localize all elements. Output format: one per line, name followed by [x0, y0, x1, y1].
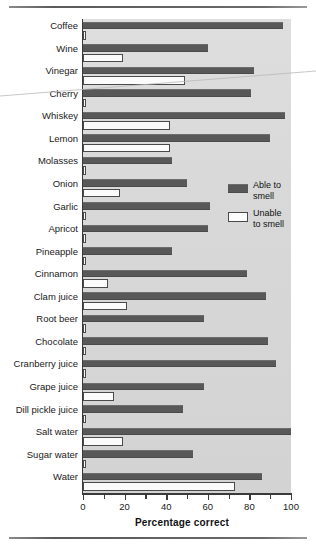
- x-tick-minor: [229, 493, 230, 499]
- legend-item-unable-to-smell: Unable to smell: [228, 210, 312, 234]
- bar-row: Cherry: [0, 87, 316, 110]
- bar-row: Water: [0, 470, 316, 493]
- bar-group: [83, 65, 291, 86]
- bar-group: [83, 313, 291, 334]
- bar-unable-to-smell: [83, 347, 86, 356]
- x-tick-major: [83, 493, 84, 500]
- bar-row: Dill pickle juice: [0, 403, 316, 426]
- bar-row: Salt water: [0, 425, 316, 448]
- bar-able-to-smell: [83, 157, 172, 165]
- bottom-divider-rule: [9, 537, 307, 539]
- bar-able-to-smell: [83, 383, 204, 391]
- bar-unable-to-smell: [83, 99, 86, 108]
- category-label: Grape juice: [0, 381, 78, 392]
- bar-group: [83, 133, 291, 154]
- bar-unable-to-smell: [83, 437, 123, 446]
- bar-row: Root beer: [0, 312, 316, 335]
- x-tick-label: 40: [161, 501, 172, 513]
- bar-row: Coffee: [0, 19, 316, 42]
- bar-row: Sugar water: [0, 448, 316, 471]
- x-axis-tick-labels: 020406080100: [0, 501, 316, 515]
- x-tick-minor: [187, 493, 188, 499]
- bar-group: [83, 358, 291, 379]
- x-tick-major: [291, 493, 292, 500]
- category-label: Clam juice: [0, 291, 78, 302]
- bar-unable-to-smell: [83, 460, 86, 469]
- bar-row: Chocolate: [0, 335, 316, 358]
- category-label: Water: [0, 471, 78, 482]
- x-tick-major: [208, 493, 209, 500]
- category-label: Onion: [0, 178, 78, 189]
- legend-swatch-able-icon: [228, 184, 248, 193]
- bar-row: Molasses: [0, 154, 316, 177]
- bar-able-to-smell: [83, 292, 266, 300]
- x-axis-ticks: [82, 493, 291, 499]
- bar-able-to-smell: [83, 473, 262, 481]
- bar-unable-to-smell: [83, 482, 235, 491]
- bar-able-to-smell: [83, 428, 291, 436]
- legend-label-able: Able to smell: [253, 180, 281, 201]
- bar-unable-to-smell: [83, 234, 86, 243]
- bar-unable-to-smell: [83, 212, 86, 221]
- bar-unable-to-smell: [83, 369, 86, 378]
- bar-unable-to-smell: [83, 302, 127, 311]
- category-label: Chocolate: [0, 336, 78, 347]
- bar-unable-to-smell: [83, 76, 185, 85]
- bar-row: Pineapple: [0, 245, 316, 268]
- x-tick-label: 100: [283, 501, 299, 513]
- category-label: Pineapple: [0, 246, 78, 257]
- bar-unable-to-smell: [83, 31, 86, 40]
- x-tick-major: [125, 493, 126, 500]
- category-label: Vinegar: [0, 65, 78, 76]
- legend-item-able-to-smell: Able to smell: [228, 182, 312, 206]
- bar-able-to-smell: [83, 270, 247, 278]
- legend-label-unable-line2: to smell: [253, 219, 284, 230]
- x-tick-label: 0: [80, 501, 85, 513]
- bar-group: [83, 471, 291, 492]
- category-label: Root beer: [0, 313, 78, 324]
- category-label: Cinnamon: [0, 268, 78, 279]
- x-axis-title: Percentage correct: [0, 517, 316, 528]
- top-divider-rule: [9, 6, 307, 8]
- bar-able-to-smell: [83, 202, 210, 210]
- bar-able-to-smell: [83, 247, 172, 255]
- category-label: Sugar water: [0, 449, 78, 460]
- x-tick-major: [166, 493, 167, 500]
- bar-group: [83, 20, 291, 41]
- chart-legend: Able to smell Unable to smell: [228, 182, 312, 238]
- bar-able-to-smell: [83, 22, 283, 30]
- bar-row: Cranberry juice: [0, 357, 316, 380]
- category-label: Whiskey: [0, 110, 78, 121]
- x-tick-label: 60: [203, 501, 214, 513]
- category-label: Coffee: [0, 20, 78, 31]
- category-label: Dill pickle juice: [0, 404, 78, 415]
- bar-group: [83, 381, 291, 402]
- bar-unable-to-smell: [83, 54, 123, 63]
- category-label: Salt water: [0, 426, 78, 437]
- bar-unable-to-smell: [83, 324, 86, 333]
- bar-unable-to-smell: [83, 415, 86, 424]
- bar-group: [83, 246, 291, 267]
- bar-group: [83, 155, 291, 176]
- x-tick-minor: [270, 493, 271, 499]
- x-tick-label: 20: [119, 501, 130, 513]
- bar-unable-to-smell: [83, 392, 114, 401]
- bar-able-to-smell: [83, 112, 285, 120]
- category-label: Apricot: [0, 223, 78, 234]
- bar-group: [83, 110, 291, 131]
- bar-able-to-smell: [83, 405, 183, 413]
- bar-row: Whiskey: [0, 109, 316, 132]
- category-label: Molasses: [0, 155, 78, 166]
- x-tick-major: [249, 493, 250, 500]
- bar-group: [83, 336, 291, 357]
- bar-row: Lemon: [0, 132, 316, 155]
- legend-label-unable-line1: Unable: [253, 208, 284, 219]
- category-label: Garlic: [0, 201, 78, 212]
- bar-able-to-smell: [83, 134, 270, 142]
- bar-group: [83, 43, 291, 64]
- bar-able-to-smell: [83, 315, 204, 323]
- bar-able-to-smell: [83, 89, 251, 97]
- bar-row: Cinnamon: [0, 267, 316, 290]
- bar-unable-to-smell: [83, 144, 170, 153]
- legend-label-able-line1: Able to: [253, 180, 281, 191]
